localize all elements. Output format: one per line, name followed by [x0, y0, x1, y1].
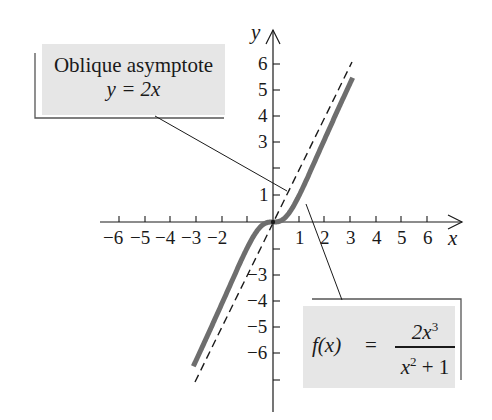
y-tick-label: 1 — [259, 185, 269, 204]
y-tick-label: 6 — [258, 54, 268, 73]
y-tick-label: 4 — [258, 106, 268, 125]
x-axis-label: x — [448, 226, 457, 251]
function-name: f(x) — [312, 333, 341, 358]
function-label: f(x) = 2x3 x2 + 1 — [303, 306, 455, 388]
fraction-bar — [395, 346, 455, 348]
asymptote-label: Oblique asymptote y = 2x — [42, 44, 225, 115]
y-axis-label: y — [251, 20, 260, 45]
x-tick-label: 3 — [346, 228, 356, 247]
x-tick-label: −5 — [130, 228, 150, 247]
y-tick-label: −6 — [247, 343, 267, 362]
asymptote-label-equation: y = 2x — [42, 77, 225, 101]
x-tick-label: −6 — [103, 228, 123, 247]
origin-point — [271, 220, 275, 224]
x-tick-label: 4 — [372, 228, 382, 247]
y-tick-label: −3 — [247, 265, 267, 284]
y-tick-label: −5 — [247, 317, 267, 336]
x-tick-label: 1 — [295, 228, 305, 247]
y-tick-label: 5 — [258, 80, 268, 99]
asymptote-leader-line — [155, 116, 287, 191]
equals-sign: = — [365, 333, 377, 358]
x-tick-label: 2 — [320, 228, 330, 247]
x-tick-label: 6 — [423, 228, 433, 247]
asymptote-label-title: Oblique asymptote — [42, 53, 225, 77]
fraction: 2x3 x2 + 1 — [395, 314, 455, 380]
x-tick-label: −3 — [181, 228, 201, 247]
denominator: x2 + 1 — [395, 349, 455, 380]
x-tick-label: −4 — [155, 228, 175, 247]
x-tick-label: 5 — [397, 228, 407, 247]
y-tick-label: 3 — [258, 132, 268, 151]
x-tick-label: −2 — [207, 228, 227, 247]
numerator: 2x3 — [395, 314, 455, 345]
y-tick-label: −4 — [247, 291, 267, 310]
